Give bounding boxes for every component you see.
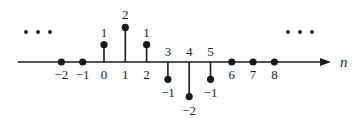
tick-label: −2 xyxy=(54,67,68,82)
tick-label: 2 xyxy=(143,67,150,82)
ellipsis-dot xyxy=(48,30,52,34)
stem-dot xyxy=(186,93,193,100)
stem-dot xyxy=(271,58,278,65)
tick-label: 0 xyxy=(101,67,108,82)
ellipsis-dot xyxy=(286,30,290,34)
stem-dot xyxy=(79,58,86,65)
tick-label: −1 xyxy=(76,67,90,82)
value-label: −1 xyxy=(161,85,175,100)
stem-dot xyxy=(228,58,235,65)
value-label: 1 xyxy=(101,25,108,40)
stem-dot xyxy=(143,41,150,48)
value-label: 2 xyxy=(122,7,129,22)
ellipsis-dot xyxy=(36,30,40,34)
stem-dot xyxy=(250,58,257,65)
tick-label: 4 xyxy=(186,44,193,59)
value-label: −2 xyxy=(182,103,196,118)
axis-label-n: n xyxy=(340,54,348,70)
tick-label: 3 xyxy=(165,44,172,59)
stem-plot: −2−10112213−14−25−1678 n xyxy=(0,0,359,124)
continuation-dots-right xyxy=(286,30,314,34)
value-label: −1 xyxy=(204,85,218,100)
stem-dot xyxy=(164,76,171,83)
continuation-dots-left xyxy=(24,30,52,34)
stem-dot xyxy=(122,24,129,31)
ellipsis-dot xyxy=(310,30,314,34)
tick-label: 6 xyxy=(229,67,236,82)
tick-label: 8 xyxy=(271,67,278,82)
tick-label: 1 xyxy=(122,67,129,82)
arrowhead-icon xyxy=(320,58,331,66)
tick-label: 5 xyxy=(207,44,214,59)
stem-dot xyxy=(100,41,107,48)
stem-dot xyxy=(207,76,214,83)
value-label: 1 xyxy=(143,25,150,40)
stem-plot-svg: −2−10112213−14−25−1678 n xyxy=(0,0,359,124)
ellipsis-dot xyxy=(298,30,302,34)
tick-label: 7 xyxy=(250,67,257,82)
stem-dot xyxy=(58,58,65,65)
ellipsis-dot xyxy=(24,30,28,34)
